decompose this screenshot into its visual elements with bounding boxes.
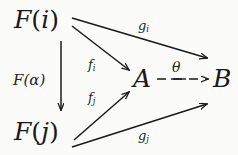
morphism-label-f-j: fj xyxy=(88,91,95,106)
object-F-of-j: F(j) xyxy=(14,119,59,144)
morphism-label-f-i: fi xyxy=(88,58,96,73)
morphism-label-g-i-sub: i xyxy=(146,24,149,34)
morphism-label-theta: θ xyxy=(172,60,180,74)
object-F-of-j-open-paren: ( xyxy=(31,117,41,146)
object-B: B xyxy=(213,66,231,91)
object-F-of-i-arg: i xyxy=(41,5,49,34)
morphism-label-g-j-sub: j xyxy=(146,134,149,144)
object-A: A xyxy=(133,66,151,91)
morphism-label-f-i-sub: i xyxy=(93,63,96,73)
object-F-of-i-close-paren: ) xyxy=(49,5,59,34)
arrow-fj xyxy=(74,92,129,140)
object-F-of-i: F(i) xyxy=(14,7,59,32)
object-F-of-i-open-paren: ( xyxy=(31,5,41,34)
morphism-label-F-alpha: F(α) xyxy=(13,73,45,88)
object-F-of-i-base: F xyxy=(14,5,31,34)
object-F-of-j-base: F xyxy=(14,117,31,146)
object-F-of-j-close-paren: ) xyxy=(49,117,59,146)
object-F-of-j-arg: j xyxy=(41,117,49,146)
commutative-diagram: F(i) F(j) A B F(α) fi fj gi gj θ xyxy=(0,0,238,155)
morphism-label-g-i: gi xyxy=(138,19,149,34)
morphism-label-g-j: gj xyxy=(138,129,149,144)
morphism-label-f-j-sub: j xyxy=(93,96,96,106)
